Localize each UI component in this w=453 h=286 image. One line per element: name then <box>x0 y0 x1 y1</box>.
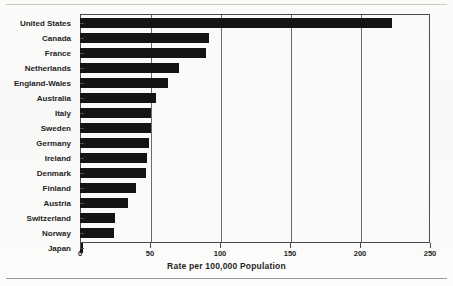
bar-ireland <box>80 153 147 163</box>
y-axis-tick <box>80 53 84 54</box>
y-axis-tick <box>80 203 84 204</box>
x-axis-tick-label: 100 <box>214 249 227 258</box>
bar-row <box>80 121 430 136</box>
x-axis-tick-label: 0 <box>78 249 82 258</box>
x-axis-tick-150 <box>290 243 291 248</box>
y-axis-tick <box>80 98 84 99</box>
y-axis-label: United States <box>0 16 74 31</box>
bar-netherlands <box>80 63 179 73</box>
x-axis-tick-label: 150 <box>284 249 297 258</box>
y-axis-label: Italy <box>0 106 74 121</box>
y-axis-tick <box>80 68 84 69</box>
bar-canada <box>80 33 209 43</box>
y-axis-label: Austria <box>0 196 74 211</box>
bar-germany <box>80 138 149 148</box>
y-axis-label: Germany <box>0 136 74 151</box>
bar-row <box>80 196 430 211</box>
x-axis-title: Rate per 100,000 Population <box>0 261 453 271</box>
x-axis-tick-50 <box>150 243 151 248</box>
bar-row <box>80 211 430 226</box>
y-axis-label: Denmark <box>0 166 74 181</box>
bar-norway <box>80 228 114 238</box>
y-axis-label: Netherlands <box>0 61 74 76</box>
y-axis-label: Sweden <box>0 121 74 136</box>
bar-row <box>80 91 430 106</box>
bar-sweden <box>80 123 151 133</box>
y-axis-label: Norway <box>0 226 74 241</box>
bottom-divider <box>6 278 447 279</box>
x-axis-tick-200 <box>360 243 361 248</box>
bar-row <box>80 136 430 151</box>
bar-row <box>80 61 430 76</box>
x-axis-tick-250 <box>430 243 431 248</box>
bar-row <box>80 76 430 91</box>
y-axis-tick <box>80 128 84 129</box>
bar-row <box>80 106 430 121</box>
top-divider <box>6 4 447 5</box>
bar-row <box>80 16 430 31</box>
bar-italy <box>80 108 151 118</box>
bar-switzerland <box>80 213 115 223</box>
y-axis-label: Finland <box>0 181 74 196</box>
y-axis-tick <box>80 188 84 189</box>
y-axis-label: Switzerland <box>0 211 74 226</box>
bar-united-states <box>80 18 392 28</box>
y-axis-category-labels: United StatesCanadaFranceNetherlandsEngl… <box>0 16 74 256</box>
bar-france <box>80 48 206 58</box>
x-axis-tick-label: 250 <box>424 249 437 258</box>
y-axis-tick <box>80 23 84 24</box>
bar-austria <box>80 198 128 208</box>
bar-row <box>80 46 430 61</box>
y-axis-tick <box>80 173 84 174</box>
bar-denmark <box>80 168 146 178</box>
y-axis-tick <box>80 233 84 234</box>
y-axis-tick <box>80 83 84 84</box>
bar-row <box>80 151 430 166</box>
y-axis-tick <box>80 158 84 159</box>
bar-australia <box>80 93 156 103</box>
y-axis-tick <box>80 113 84 114</box>
bar-row <box>80 31 430 46</box>
x-axis-tick-label: 50 <box>146 249 154 258</box>
y-axis-label: England-Wales <box>0 76 74 91</box>
y-axis-tick <box>80 218 84 219</box>
y-axis-label: Australia <box>0 91 74 106</box>
x-axis-tick-labels: 050100150200250 <box>0 249 453 261</box>
y-axis-tick <box>80 38 84 39</box>
chart-page: United StatesCanadaFranceNetherlandsEngl… <box>0 0 453 286</box>
bar-series <box>80 16 430 241</box>
bar-england-wales <box>80 78 168 88</box>
y-axis-label: Canada <box>0 31 74 46</box>
bar-row <box>80 181 430 196</box>
bar-row <box>80 166 430 181</box>
x-axis-tick-100 <box>220 243 221 248</box>
bar-finland <box>80 183 136 193</box>
bar-row <box>80 226 430 241</box>
y-axis-label: France <box>0 46 74 61</box>
x-axis-tick-label: 200 <box>354 249 367 258</box>
y-axis-label: Ireland <box>0 151 74 166</box>
y-axis-tick <box>80 248 84 249</box>
y-axis-tick <box>80 143 84 144</box>
